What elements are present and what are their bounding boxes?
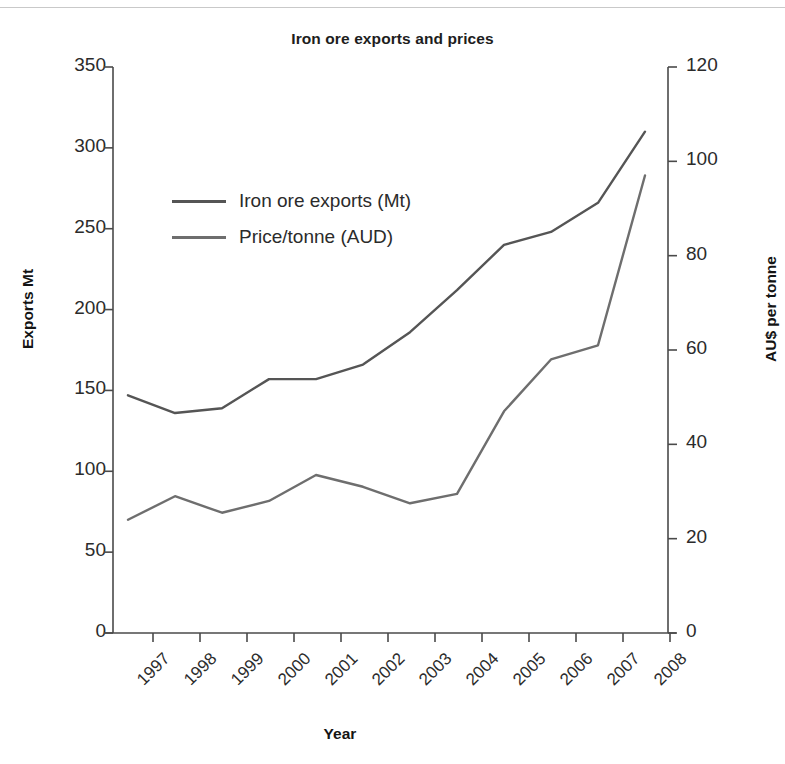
chart-legend: Iron ore exports (Mt)Price/tonne (AUD) <box>172 183 411 255</box>
legend-line-swatch <box>172 200 226 203</box>
legend-item: Iron ore exports (Mt) <box>172 183 411 219</box>
plot-canvas <box>0 0 785 764</box>
chart-figure: Iron ore exports and prices Exports Mt A… <box>0 0 785 764</box>
legend-item-label: Price/tonne (AUD) <box>239 226 393 248</box>
legend-item: Price/tonne (AUD) <box>172 219 411 255</box>
legend-item-label: Iron ore exports (Mt) <box>239 190 411 212</box>
axis-lines <box>104 67 677 642</box>
legend-line-swatch <box>172 236 226 239</box>
